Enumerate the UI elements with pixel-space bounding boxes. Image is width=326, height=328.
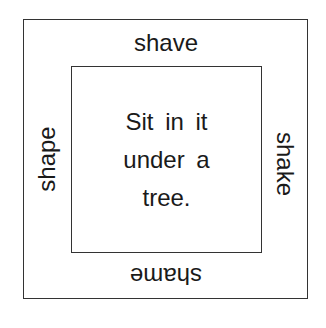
word-bottom: shame: [130, 264, 202, 288]
word-left: shape: [35, 126, 59, 191]
center-line-3: tree.: [142, 179, 190, 217]
word-right: shake: [273, 132, 297, 196]
center-line-1: Sit in it: [125, 103, 207, 141]
center-line-2: under a: [123, 141, 209, 179]
center-riddle: Sit in it under a tree.: [71, 66, 262, 253]
word-top: shave: [134, 31, 198, 55]
